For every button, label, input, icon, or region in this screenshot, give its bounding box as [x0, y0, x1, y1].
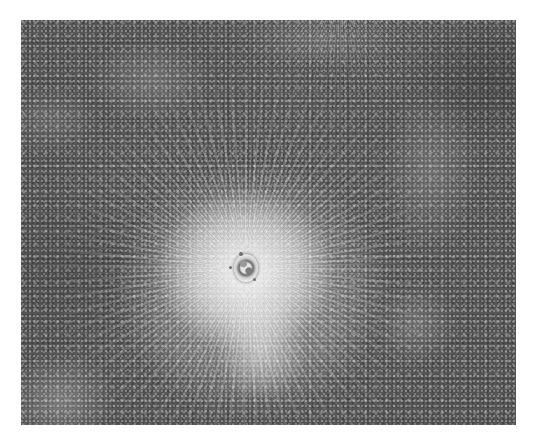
crater-rim-spot: [229, 266, 232, 269]
surface-bright-grains: [21, 20, 516, 425]
crater-rim-spot: [239, 252, 243, 256]
photo-frame: [21, 20, 516, 425]
crater-rim-spot: [253, 278, 256, 281]
